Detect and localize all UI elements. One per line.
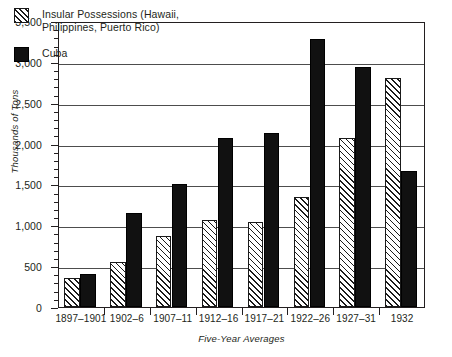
bar-cuba (401, 171, 417, 307)
legend-swatch-hatched-icon (14, 8, 29, 23)
y-axis-title: Thousands of Tons (9, 72, 20, 192)
x-axis-tick-label: 1932 (391, 313, 414, 324)
y-axis-tick-label: 1,000 (15, 220, 42, 232)
bar-cuba (310, 39, 326, 307)
x-axis-tick-label: 1922–26 (290, 313, 330, 324)
bar-cuba (80, 274, 96, 307)
bar-insular-possessions (202, 220, 218, 307)
bar-cuba (264, 133, 280, 307)
bar-insular-possessions (64, 278, 80, 307)
bar-cuba (355, 67, 371, 307)
legend-item-cuba: Cuba (14, 47, 254, 62)
y-axis-major-tick (51, 267, 58, 268)
chart-legend: Insular Possessions (Hawaii, Philippines… (14, 8, 254, 75)
bar-insular-possessions (385, 78, 401, 307)
legend-label-cuba: Cuba (42, 47, 68, 60)
bar-insular-possessions (110, 262, 126, 307)
sugar-imports-bar-chart: 05001,0001,5002,0002,5003,0003,500 Thous… (0, 0, 452, 357)
bar-cuba (172, 184, 188, 307)
bar-insular-possessions (156, 236, 172, 307)
y-axis-major-tick (51, 185, 58, 186)
x-axis-tick-label: 1927–31 (336, 313, 376, 324)
x-axis-tick-label: 1897–1901 (55, 313, 106, 324)
y-axis-tick-label: 500 (24, 261, 42, 273)
y-axis-major-tick (51, 226, 58, 227)
x-axis-tick-label: 1917–21 (245, 313, 285, 324)
bar-cuba (218, 138, 234, 307)
legend-label-insular: Insular Possessions (Hawaii, Philippines… (42, 8, 179, 34)
x-axis-tick-label: 1912–16 (199, 313, 239, 324)
y-axis-major-tick (51, 308, 58, 309)
x-axis-tick-labels: 1897–19011902–61907–111912–161917–211922… (58, 313, 425, 331)
x-axis-title: Five-Year Averages (58, 333, 425, 344)
x-axis-tick-label: 1907–11 (153, 313, 192, 324)
bar-insular-possessions (294, 197, 310, 307)
x-axis-tick-label: 1902–6 (110, 313, 144, 324)
y-axis-major-tick (51, 104, 58, 105)
legend-swatch-solid-icon (14, 47, 29, 62)
bar-insular-possessions (339, 138, 355, 307)
y-axis-major-tick (51, 145, 58, 146)
y-axis-tick-label: 0 (36, 302, 42, 314)
legend-item-insular: Insular Possessions (Hawaii, Philippines… (14, 8, 254, 34)
bar-insular-possessions (248, 222, 264, 307)
bar-cuba (126, 213, 142, 307)
